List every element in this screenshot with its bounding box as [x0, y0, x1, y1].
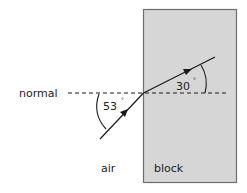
refraction-degree-symbol: °: [193, 76, 196, 83]
refraction-angle-value: 30: [176, 80, 190, 93]
normal-label: normal: [19, 87, 58, 100]
incidence-angle-value: 53: [103, 100, 117, 113]
incidence-degree-symbol: °: [121, 96, 124, 103]
block-label: block: [154, 162, 184, 175]
glass-block: [144, 10, 237, 183]
diagram-canvas: normal 53 ° 30 ° air block: [0, 0, 247, 193]
refraction-diagram: normal 53 ° 30 ° air block: [0, 0, 247, 193]
air-label: air: [101, 162, 116, 175]
